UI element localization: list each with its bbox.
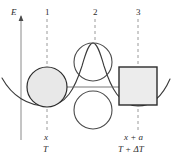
potential-energy-diagram: E 1 2 3 x x + a T T + ΔT <box>0 0 172 157</box>
position-label-right: x + a <box>124 133 143 142</box>
marker-label-3: 3 <box>136 8 141 17</box>
particle-circle-state-1 <box>27 67 67 107</box>
particle-circle-state-2b <box>74 91 112 129</box>
time-label-left: T <box>43 145 48 154</box>
marker-label-1: 1 <box>45 8 50 17</box>
position-label-left: x <box>44 133 48 142</box>
marker-label-2: 2 <box>93 8 98 17</box>
particle-circle-state-2 <box>74 43 112 81</box>
energy-axis-label: E <box>11 8 17 17</box>
particle-square-state-3 <box>119 67 157 105</box>
diagram-canvas <box>0 0 172 157</box>
time-label-right: T + ΔT <box>118 145 144 154</box>
energy-axis <box>19 15 24 140</box>
